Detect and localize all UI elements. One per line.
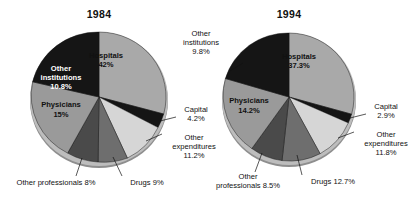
pie2-title: 1994 — [277, 8, 302, 20]
pie1-label-other-expenditures-name: Other — [185, 133, 204, 142]
pie2-label-physicians-name: Physicians — [229, 96, 269, 105]
pie2-label-drugs: Drugs 12.7% — [311, 177, 355, 186]
pie2-label-other-expenditures-name: Other — [377, 130, 396, 139]
pie1-label-physicians-name: Physicians — [41, 100, 81, 109]
pie2-label-hospitals-name: Hospitals — [282, 52, 316, 61]
pie2-label-capital-name: Capital — [374, 102, 398, 111]
pie1-group: Hospitals 42% Other institutions 10.8% P… — [17, 32, 216, 187]
pie1-label-other-professionals: Other professionals 8% — [17, 178, 96, 187]
dual-pie-chart: 1984 Hospitals 42% Other institutions 10… — [0, 0, 420, 209]
pie2-group: Hospitals 37.3% Physicians 14.2% Other i… — [183, 29, 408, 190]
pie2-label-capital-value: 2.9% — [377, 111, 395, 120]
pie1-label-other-institutions-name: Other — [51, 64, 71, 73]
pie1-label-capital-value: 4.2% — [187, 114, 205, 123]
pie1-label-capital-name: Capital — [184, 105, 208, 114]
pie1-label-other-expenditures-value: 11.2% — [184, 151, 205, 160]
figure-canvas: 1984 Hospitals 42% Other institutions 10… — [0, 0, 420, 209]
pie2-label-other-professionals-name: Other — [239, 172, 258, 181]
pie1-title: 1984 — [87, 8, 112, 20]
pie1-label-other-expenditures-name2: expenditures — [172, 142, 216, 151]
pie2-label-other-professionals-name2: professionals 8.5% — [216, 181, 280, 190]
pie1-label-drugs: Drugs 9% — [130, 178, 164, 187]
pie1-label-hospitals-name: Hospitals — [89, 51, 123, 60]
pie2-label-other-institutions-name2: institutions — [183, 38, 219, 47]
pie2-label-other-institutions-value: 9.8% — [192, 47, 210, 56]
pie2-label-other-institutions-name: Other — [192, 29, 211, 38]
pie1-label-other-institutions-name2: institutions — [41, 73, 82, 82]
pie1-label-hospitals-value: 42% — [98, 60, 113, 69]
pie2-label-physicians-value: 14.2% — [238, 106, 260, 115]
pie1-label-physicians-value: 15% — [53, 110, 68, 119]
pie2-label-other-expenditures-name2: expenditures — [364, 139, 408, 148]
pie2-label-other-expenditures-value: 11.8% — [376, 148, 397, 157]
pie1-label-other-institutions-value: 10.8% — [50, 82, 72, 91]
pie2-label-hospitals-value: 37.3% — [288, 61, 310, 70]
